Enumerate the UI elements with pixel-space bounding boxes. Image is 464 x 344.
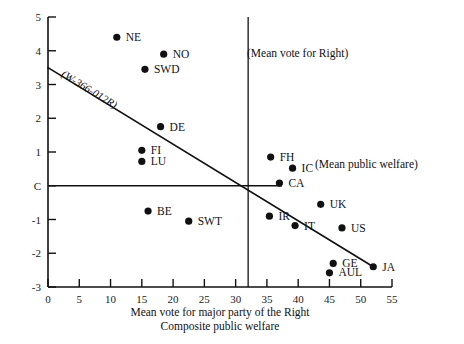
- x-axis-title-line-2: Composite public welfare: [161, 320, 280, 333]
- point-marker: [276, 179, 283, 186]
- point-label: SWT: [198, 215, 222, 227]
- data-point: JA: [370, 261, 396, 273]
- mean-vote-annotation: (Mean vote for Right): [247, 47, 348, 60]
- y-tick-label: 2: [36, 112, 42, 124]
- point-marker: [138, 147, 145, 154]
- x-tick-label: 35: [261, 293, 273, 305]
- point-marker: [326, 269, 333, 276]
- scatter-plot-figure: 54321C-1-2-3 0510152025303540455055 NENO…: [0, 0, 464, 344]
- data-point: IT: [291, 220, 314, 232]
- point-marker: [138, 158, 145, 165]
- point-label: BE: [157, 205, 172, 217]
- x-tick-label: 30: [230, 293, 242, 305]
- point-marker: [267, 153, 274, 160]
- point-label: NO: [173, 48, 190, 60]
- point-marker: [144, 207, 151, 214]
- x-tick-label: 25: [199, 293, 211, 305]
- point-marker: [370, 263, 377, 270]
- point-marker: [160, 51, 167, 58]
- point-label: IC: [302, 162, 314, 174]
- y-tick-label: 1: [36, 146, 42, 158]
- y-axis-ticks: [48, 17, 56, 287]
- x-tick-label: 55: [387, 293, 399, 305]
- data-point: LU: [138, 155, 167, 167]
- data-point: BE: [144, 205, 171, 217]
- point-marker: [291, 222, 298, 229]
- x-tick-label: 50: [355, 293, 367, 305]
- y-tick-label: 3: [36, 79, 42, 91]
- y-tick-label: 5: [36, 11, 42, 23]
- data-point: AUL: [326, 266, 362, 278]
- data-points: NENOSWDDEFILUFHICCABESWTIRITUKUSGEAULJA: [113, 31, 396, 278]
- data-point: NE: [113, 31, 141, 43]
- x-tick-label: 20: [168, 293, 180, 305]
- data-point: SWD: [141, 63, 179, 75]
- data-point: CA: [276, 177, 305, 189]
- point-label: CA: [288, 177, 305, 189]
- point-marker: [157, 123, 164, 130]
- point-label: LU: [151, 155, 167, 167]
- point-label: IR: [278, 210, 290, 222]
- data-point: IC: [289, 162, 313, 174]
- point-label: DE: [170, 121, 185, 133]
- y-tick-label: -2: [32, 247, 41, 259]
- point-label: JA: [382, 261, 395, 273]
- plot-canvas: 54321C-1-2-3 0510152025303540455055 NENO…: [0, 0, 464, 344]
- point-marker: [338, 224, 345, 231]
- data-point: FH: [267, 151, 294, 163]
- point-marker: [317, 201, 324, 208]
- x-tick-label: 0: [45, 293, 51, 305]
- data-point: DE: [157, 121, 185, 133]
- point-marker: [330, 260, 337, 267]
- data-point: US: [338, 222, 365, 234]
- data-point: SWT: [185, 215, 222, 227]
- data-point: UK: [317, 198, 347, 210]
- point-label: US: [351, 222, 366, 234]
- point-marker: [266, 213, 273, 220]
- y-tick-label: 4: [36, 45, 42, 57]
- point-label: NE: [126, 31, 141, 43]
- point-marker: [185, 218, 192, 225]
- x-tick-label: 15: [136, 293, 148, 305]
- data-point: NO: [160, 48, 189, 60]
- data-point: IR: [266, 210, 290, 222]
- x-tick-label: 5: [77, 293, 83, 305]
- x-tick-label: 40: [293, 293, 305, 305]
- point-marker: [113, 34, 120, 41]
- point-label: FH: [280, 151, 295, 163]
- point-marker: [289, 165, 296, 172]
- x-axis-ticks: [48, 279, 392, 287]
- y-tick-label: -3: [32, 281, 42, 293]
- point-label: AUL: [338, 266, 362, 278]
- mean-welfare-annotation: (Mean public welfare): [315, 158, 418, 171]
- y-axis-tick-labels: 54321C-1-2-3: [32, 11, 42, 293]
- y-tick-label: -1: [32, 214, 41, 226]
- x-axis-title-line-1: Mean vote for major party of the Right: [130, 306, 310, 319]
- y-tick-label: C: [34, 180, 41, 192]
- regression-equation-label: (W-366-012R): [59, 68, 120, 112]
- point-label: UK: [330, 198, 347, 210]
- x-axis-tick-labels: 0510152025303540455055: [45, 293, 398, 305]
- x-tick-label: 10: [105, 293, 117, 305]
- x-tick-label: 45: [324, 293, 336, 305]
- point-marker: [141, 66, 148, 73]
- point-label: SWD: [154, 63, 180, 75]
- point-label: IT: [304, 220, 315, 232]
